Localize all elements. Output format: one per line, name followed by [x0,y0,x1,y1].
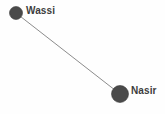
graph-node-label-wassi: Wassi [26,6,55,16]
graph-node-wassi[interactable] [10,7,23,20]
graph-node-label-nasir: Nasir [131,86,157,96]
graph-edge-wassi-nasir[interactable] [16,13,120,94]
graph-node-nasir[interactable] [112,86,129,103]
graph-svg [0,0,165,114]
graph-canvas: Wassi Nasir [0,0,165,114]
